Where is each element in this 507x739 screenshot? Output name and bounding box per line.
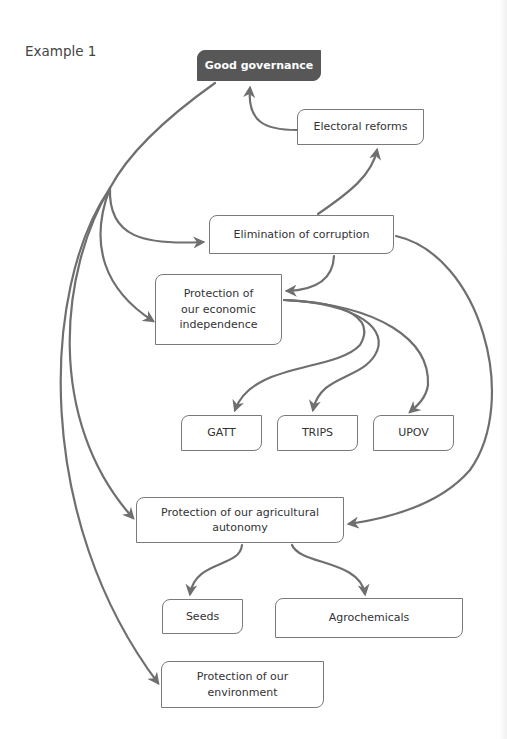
edge-governance-to-environment [61,188,158,683]
node-trips: TRIPS [277,415,358,451]
node-label: UPOV [398,425,429,441]
edge-governance-trunk [110,83,215,188]
edge-agricultural-to-agrochemicals [292,545,365,594]
node-elimination-of-corruption: Elimination of corruption [209,215,394,254]
edge-economic-to-trips [284,300,379,410]
edge-governance-to-corruption [110,188,203,243]
node-label: Good governance [205,58,313,74]
edge-corruption-to-economic [287,256,334,291]
edge-governance-to-economic [101,188,153,321]
node-label: Protection of our economic independence [178,286,259,333]
node-label: GATT [207,425,235,441]
node-good-governance: Good governance [197,50,321,81]
node-agricultural-autonomy: Protection of our agricultural autonomy [136,497,344,543]
node-agrochemicals: Agrochemicals [275,598,463,638]
node-electoral-reforms: Electoral reforms [297,109,424,145]
node-upov: UPOV [373,415,454,451]
node-label: Agrochemicals [329,610,410,626]
node-label: Seeds [186,609,219,625]
node-label: Electoral reforms [313,119,407,135]
edge-corruption-to-agricultural [349,236,492,524]
node-label: Protection of our environment [184,669,301,700]
node-economic-independence: Protection of our economic independence [155,274,282,345]
edge-agricultural-to-seeds [190,545,242,594]
edge-electoral-to-governance [250,88,297,130]
node-gatt: GATT [181,415,262,451]
node-label: Elimination of corruption [234,227,370,243]
edge-corruption-to-electoral [318,150,377,214]
node-environment: Protection of our environment [161,661,324,708]
node-label: TRIPS [302,425,333,441]
node-label: Protection of our agricultural autonomy [159,505,321,536]
node-seeds: Seeds [162,599,243,634]
